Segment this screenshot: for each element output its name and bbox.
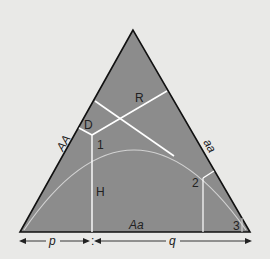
q-arrow-left-head (94, 238, 101, 244)
label-R: R (135, 91, 144, 105)
p-arrow-left-head (19, 238, 26, 244)
q-arrow-right-head (245, 238, 252, 244)
label-D: D (84, 118, 93, 132)
label-p: p (48, 234, 56, 248)
separator: : (91, 234, 94, 248)
point-3-label: 3 (233, 219, 240, 233)
p-arrow-right-head (83, 238, 90, 244)
de-finetti-diagram: R D H 1 2 3 AA aa Aa p : q (0, 0, 270, 259)
label-Aa: Aa (128, 218, 144, 232)
label-q: q (169, 234, 176, 248)
label-H: H (96, 185, 105, 199)
point-2-label: 2 (192, 176, 199, 190)
point-1-label: 1 (97, 138, 104, 152)
triangle (20, 30, 250, 232)
